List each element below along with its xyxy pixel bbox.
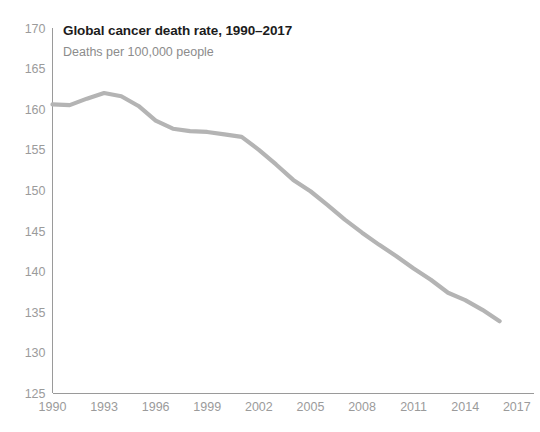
chart-container: Global cancer death rate, 1990–2017 Deat…: [0, 0, 540, 432]
y-tick-145: 145: [25, 225, 46, 239]
x-tick-1996: 1996: [142, 400, 170, 414]
x-tick-1990: 1990: [39, 400, 67, 414]
y-tick-165: 165: [25, 62, 46, 76]
data-series-line: [53, 93, 500, 321]
x-tick-1993: 1993: [90, 400, 118, 414]
y-tick-130: 130: [25, 346, 46, 360]
y-axis-tick-labels: 125130135140145150155160165170: [25, 22, 46, 402]
y-tick-170: 170: [25, 22, 46, 36]
x-axis-tick-labels: 1990199319961999200220052008201120142017: [39, 400, 531, 414]
x-tick-2002: 2002: [245, 400, 273, 414]
x-tick-1999: 1999: [193, 400, 221, 414]
y-tick-150: 150: [25, 184, 46, 198]
x-tick-2017: 2017: [503, 400, 531, 414]
y-tick-160: 160: [25, 103, 46, 117]
x-tick-2005: 2005: [297, 400, 325, 414]
x-tick-2014: 2014: [451, 400, 479, 414]
y-tick-155: 155: [25, 143, 46, 157]
x-tick-2008: 2008: [348, 400, 376, 414]
y-tick-140: 140: [25, 265, 46, 279]
line-chart-plot: 125130135140145150155160165170 199019931…: [0, 0, 540, 432]
y-tick-135: 135: [25, 306, 46, 320]
x-tick-2011: 2011: [400, 400, 427, 414]
